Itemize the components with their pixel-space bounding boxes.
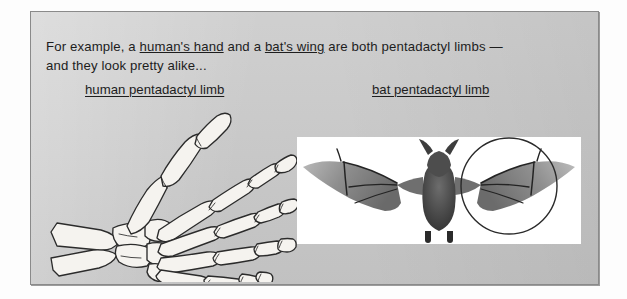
caption-bat-pentadactyl-limb: bat pentadactyl limb <box>372 82 489 98</box>
intro-paragraph: For example, a human's hand and a bat's … <box>46 37 566 75</box>
human-hand-skeleton-figure <box>49 110 299 282</box>
bat-photo-panel <box>297 137 581 244</box>
intro-text-line2: and they look pretty alike... <box>46 58 207 73</box>
bat-wing-link[interactable]: bat's wing <box>265 39 325 54</box>
bat-left-foot <box>425 231 431 243</box>
slide-page: For example, a human's hand and a bat's … <box>0 0 627 299</box>
human-hand-link[interactable]: human's hand <box>140 39 224 54</box>
hand-skeleton-drawing <box>49 110 299 282</box>
ulna-bone <box>51 223 119 250</box>
thumb-distal-phalanx <box>195 113 231 148</box>
bat-right-foot <box>447 231 453 243</box>
radius-bone <box>51 250 117 276</box>
index-distal-phalanx <box>275 155 297 173</box>
intro-text-part2: and a <box>224 39 265 54</box>
ring-distal-phalanx <box>278 239 296 253</box>
slide-frame: For example, a human's hand and a bat's … <box>30 11 599 285</box>
caption-human-pentadactyl-limb: human pentadactyl limb <box>85 82 224 98</box>
intro-text-part1: For example, a <box>46 39 140 54</box>
intro-text-part3: are both pentadactyl limbs — <box>324 39 502 54</box>
bat-photograph <box>297 137 581 244</box>
